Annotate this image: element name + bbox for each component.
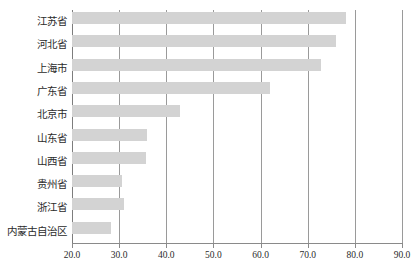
x-tick-mark-80.0 (355, 243, 356, 248)
x-tick-mark-50.0 (213, 243, 214, 248)
bar-山东省[interactable] (72, 129, 147, 141)
category-label-贵州省: 贵州省 (37, 173, 67, 196)
category-label-山东省: 山东省 (37, 127, 67, 150)
x-tick-label-50.0: 50.0 (205, 250, 222, 260)
category-label-江苏省: 江苏省 (37, 10, 67, 33)
bar-内蒙古自治区[interactable] (72, 222, 111, 234)
bar-row (72, 196, 402, 219)
bar-上海市[interactable] (72, 59, 321, 71)
bar-row (72, 150, 402, 173)
x-tick-label-20.0: 20.0 (64, 250, 81, 260)
bar-rows (72, 10, 402, 243)
x-tick-label-30.0: 30.0 (111, 250, 128, 260)
gridline-90.0 (402, 10, 403, 243)
x-tick-label-70.0: 70.0 (299, 250, 316, 260)
category-label-北京市: 北京市 (37, 103, 67, 126)
category-label-浙江省: 浙江省 (37, 196, 67, 219)
bar-浙江省[interactable] (72, 198, 124, 210)
bar-北京市[interactable] (72, 105, 180, 117)
category-label-上海市: 上海市 (37, 57, 67, 80)
x-tick-mark-30.0 (119, 243, 120, 248)
x-tick-label-40.0: 40.0 (158, 250, 175, 260)
category-label-河北省: 河北省 (37, 33, 67, 56)
x-axis-line (72, 243, 402, 244)
bar-row (72, 103, 402, 126)
bar-江苏省[interactable] (72, 12, 346, 24)
bar-row (72, 33, 402, 56)
bar-row (72, 127, 402, 150)
bar-贵州省[interactable] (72, 175, 122, 187)
bar-row (72, 10, 402, 33)
bar-row (72, 220, 402, 243)
x-tick-mark-90.0 (402, 243, 403, 248)
bar-河北省[interactable] (72, 35, 336, 47)
bar-row (72, 173, 402, 196)
bar-广东省[interactable] (72, 82, 270, 94)
x-tick-label-60.0: 60.0 (252, 250, 269, 260)
x-tick-mark-20.0 (72, 243, 73, 248)
plot-area (72, 10, 402, 243)
x-tick-label-80.0: 80.0 (347, 250, 364, 260)
bar-chart: 江苏省河北省上海市广东省北京市山东省山西省贵州省浙江省内蒙古自治区 20.030… (0, 0, 417, 270)
bar-row (72, 57, 402, 80)
bar-山西省[interactable] (72, 152, 146, 164)
x-tick-mark-70.0 (308, 243, 309, 248)
category-axis-labels: 江苏省河北省上海市广东省北京市山东省山西省贵州省浙江省内蒙古自治区 (0, 10, 70, 243)
x-tick-label-90.0: 90.0 (394, 250, 411, 260)
x-tick-mark-60.0 (261, 243, 262, 248)
category-label-广东省: 广东省 (37, 80, 67, 103)
x-tick-mark-40.0 (166, 243, 167, 248)
category-label-山西省: 山西省 (37, 150, 67, 173)
bar-row (72, 80, 402, 103)
category-label-内蒙古自治区: 内蒙古自治区 (7, 220, 67, 243)
